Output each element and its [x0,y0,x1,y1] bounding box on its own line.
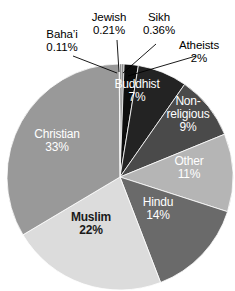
label-other-name: Other [174,154,203,168]
label-nonreligious-line1: Non- [175,94,200,108]
label-bahai-name: Baha’i [46,28,77,40]
label-hindu-value: 14% [133,209,183,222]
label-atheists-value: 2% [168,52,230,65]
label-buddhist-name: Buddhist [114,77,159,91]
label-sikh: Sikh 0.36% [135,11,183,36]
label-nonreligious: Non- religious 9% [158,95,218,134]
label-atheists: Atheists 2% [168,39,230,64]
label-other-value: 11% [163,168,215,181]
label-jewish-value: 0.21% [83,24,135,37]
label-sikh-name: Sikh [148,11,170,23]
label-christian-name: Christian [34,127,80,141]
pie-chart: Baha’i 0.11% Jewish 0.21% Sikh 0.36% Ath… [0,0,235,291]
label-hindu: Hindu 14% [133,196,183,222]
label-bahai-value: 0.11% [33,41,91,54]
label-atheists-name: Atheists [179,39,219,51]
label-jewish: Jewish 0.21% [83,11,135,36]
label-muslim-value: 22% [63,224,119,237]
label-christian-value: 33% [26,141,88,154]
label-sikh-value: 0.36% [135,24,183,37]
label-nonreligious-value: 9% [158,121,218,134]
label-muslim-name: Muslim [71,210,111,224]
label-jewish-name: Jewish [92,11,127,23]
label-other: Other 11% [163,155,215,181]
label-christian: Christian 33% [26,128,88,154]
label-muslim: Muslim 22% [63,211,119,237]
label-hindu-name: Hindu [143,195,173,209]
